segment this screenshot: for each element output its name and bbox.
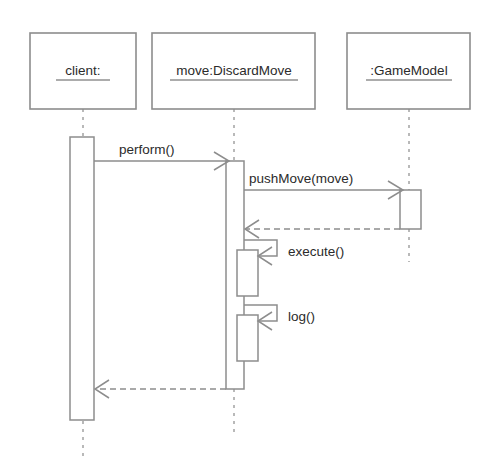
activation-bar-move-log xyxy=(237,315,258,361)
message-pushmove[interactable]: pushMove(move) xyxy=(244,171,403,199)
participant-label-gamemodel: :GameModel xyxy=(370,63,447,78)
message-label-perform: perform() xyxy=(119,142,175,157)
message-perform[interactable]: perform() xyxy=(94,142,229,170)
participant-label-client: client: xyxy=(65,63,100,78)
message-label-log: log() xyxy=(288,309,315,324)
participant-move[interactable]: move:DiscardMove xyxy=(152,33,315,109)
activation-bar-move-execute xyxy=(237,250,258,296)
message-label-execute: execute() xyxy=(288,244,344,259)
participant-client[interactable]: client: xyxy=(30,33,136,109)
sequence-diagram-svg: client: move:DiscardMove :GameModel perf… xyxy=(0,0,502,465)
message-label-pushmove: pushMove(move) xyxy=(249,171,353,186)
message-return-client[interactable] xyxy=(95,380,226,398)
activation-bars-group xyxy=(70,137,421,420)
sequence-diagram-canvas: client: move:DiscardMove :GameModel perf… xyxy=(0,0,502,465)
participant-label-move: move:DiscardMove xyxy=(176,63,292,78)
participant-gamemodel[interactable]: :GameModel xyxy=(347,33,470,109)
activation-bar-gamemodel xyxy=(400,190,421,229)
message-return-gamemodel[interactable] xyxy=(245,220,400,238)
message-execute[interactable]: execute() xyxy=(244,240,344,265)
activation-bar-client xyxy=(70,137,94,420)
